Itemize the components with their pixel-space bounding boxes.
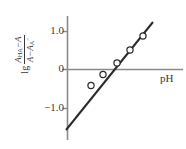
y-axis-label-operator: lg xyxy=(20,66,30,74)
x-axis-label: pH xyxy=(160,72,173,84)
y-tick-label-zero: 0 xyxy=(59,62,65,74)
numerator-tail: −A xyxy=(13,36,23,48)
data-point xyxy=(100,71,106,77)
y-axis-label-fraction: AHA−A A−AA− xyxy=(14,34,36,64)
chart-figure: 1.0 0 −1.0 pH lg AHA−A A−AA− xyxy=(0,0,186,149)
denominator-lead: A−A xyxy=(25,45,35,62)
data-point xyxy=(88,82,94,88)
y-axis-label-numerator: AHA−A xyxy=(14,34,24,64)
y-axis-label-denominator: A−AA− xyxy=(24,35,36,64)
data-point xyxy=(114,60,120,66)
data-point xyxy=(127,47,133,53)
numerator-variable: A xyxy=(13,57,23,63)
trend-line xyxy=(66,22,153,130)
y-axis-label: lg AHA−A A−AA− xyxy=(11,19,39,89)
y-tick-label-positive-one: 1.0 xyxy=(50,24,64,36)
data-point xyxy=(140,33,146,39)
y-tick-label-negative-one: −1.0 xyxy=(44,101,64,113)
denominator-subscript: A xyxy=(28,41,35,46)
numerator-subscript: HA xyxy=(16,48,23,57)
denominator-superscript: − xyxy=(24,37,31,41)
